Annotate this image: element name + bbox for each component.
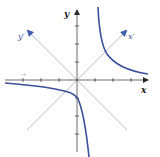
x-prime-axis-label: x′ (128, 32, 135, 41)
hyperbola-upper-branch (98, 7, 148, 74)
x-axis-label: x (140, 85, 147, 95)
x-tick-label: −4 (20, 72, 26, 77)
hyperbola-lower-branch (5, 83, 89, 157)
y-prime-axis-label: y′ (17, 32, 25, 41)
hyperbola-diagram: y x y′ x′ −4 (0, 0, 160, 157)
y-axis-label: y (63, 9, 70, 19)
x-prime-axis (27, 31, 126, 130)
y-prime-axis (28, 31, 127, 130)
